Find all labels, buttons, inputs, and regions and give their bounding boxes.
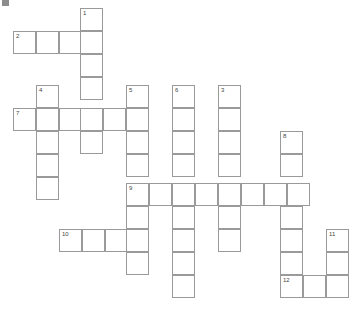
crossword-cell-clue-7[interactable]: 7 xyxy=(13,108,36,131)
crossword-cell[interactable] xyxy=(36,108,59,131)
crossword-cell[interactable] xyxy=(241,183,264,206)
crossword-cell-clue-3[interactable]: 3 xyxy=(218,85,241,108)
crossword-cell[interactable] xyxy=(326,275,349,298)
cell-letter[interactable] xyxy=(60,32,81,53)
crossword-cell-clue-4[interactable]: 4 xyxy=(36,85,59,108)
crossword-cell[interactable] xyxy=(218,229,241,252)
cell-letter[interactable] xyxy=(14,32,35,53)
crossword-cell[interactable] xyxy=(80,108,103,131)
cell-letter[interactable] xyxy=(281,253,302,274)
crossword-cell[interactable] xyxy=(218,108,241,131)
cell-letter[interactable] xyxy=(127,109,148,130)
cell-letter[interactable] xyxy=(196,184,217,205)
cell-letter[interactable] xyxy=(37,32,58,53)
crossword-cell[interactable] xyxy=(82,229,105,252)
cell-letter[interactable] xyxy=(281,207,302,228)
crossword-cell[interactable] xyxy=(172,206,195,229)
cell-letter[interactable] xyxy=(83,230,104,251)
crossword-cell[interactable] xyxy=(280,206,303,229)
crossword-cell[interactable] xyxy=(80,31,103,54)
crossword-cell[interactable] xyxy=(218,154,241,177)
cell-letter[interactable] xyxy=(81,55,102,76)
crossword-cell-clue-12[interactable]: 12 xyxy=(280,275,303,298)
crossword-cell-clue-11[interactable]: 11 xyxy=(326,229,349,252)
cell-letter[interactable] xyxy=(173,253,194,274)
cell-letter[interactable] xyxy=(173,184,194,205)
cell-letter[interactable] xyxy=(281,155,302,176)
crossword-cell[interactable] xyxy=(280,252,303,275)
cell-letter[interactable] xyxy=(281,132,302,153)
cell-letter[interactable] xyxy=(173,230,194,251)
cell-letter[interactable] xyxy=(242,184,263,205)
cell-letter[interactable] xyxy=(127,86,148,107)
cell-letter[interactable] xyxy=(106,230,127,251)
cell-letter[interactable] xyxy=(327,276,348,297)
crossword-cell[interactable] xyxy=(80,54,103,77)
crossword-cell[interactable] xyxy=(126,131,149,154)
crossword-cell[interactable] xyxy=(36,154,59,177)
cell-letter[interactable] xyxy=(37,178,58,199)
cell-letter[interactable] xyxy=(14,109,35,130)
cell-letter[interactable] xyxy=(81,32,102,53)
crossword-cell-clue-10[interactable]: 10 xyxy=(59,229,82,252)
cell-letter[interactable] xyxy=(81,132,102,153)
crossword-cell[interactable] xyxy=(36,177,59,200)
cell-letter[interactable] xyxy=(127,253,148,274)
cell-letter[interactable] xyxy=(127,155,148,176)
cell-letter[interactable] xyxy=(173,132,194,153)
crossword-cell[interactable] xyxy=(326,252,349,275)
cell-letter[interactable] xyxy=(127,184,148,205)
cell-letter[interactable] xyxy=(37,132,58,153)
cell-letter[interactable] xyxy=(219,184,240,205)
cell-letter[interactable] xyxy=(60,109,81,130)
crossword-cell[interactable] xyxy=(172,131,195,154)
cell-letter[interactable] xyxy=(219,230,240,251)
cell-letter[interactable] xyxy=(150,184,171,205)
crossword-cell[interactable] xyxy=(264,183,287,206)
cell-letter[interactable] xyxy=(265,184,286,205)
cell-letter[interactable] xyxy=(288,184,309,205)
cell-letter[interactable] xyxy=(81,109,102,130)
crossword-cell[interactable] xyxy=(172,252,195,275)
cell-letter[interactable] xyxy=(219,207,240,228)
crossword-cell[interactable] xyxy=(36,31,59,54)
crossword-cell[interactable] xyxy=(103,108,126,131)
crossword-cell[interactable] xyxy=(287,183,310,206)
crossword-cell[interactable] xyxy=(126,206,149,229)
cell-letter[interactable] xyxy=(37,109,58,130)
cell-letter[interactable] xyxy=(281,276,302,297)
cell-letter[interactable] xyxy=(327,230,348,251)
crossword-cell[interactable] xyxy=(126,252,149,275)
cell-letter[interactable] xyxy=(127,230,148,251)
crossword-cell[interactable] xyxy=(172,108,195,131)
crossword-cell[interactable] xyxy=(280,229,303,252)
crossword-cell[interactable] xyxy=(172,154,195,177)
crossword-cell[interactable] xyxy=(218,183,241,206)
cell-letter[interactable] xyxy=(281,230,302,251)
cell-letter[interactable] xyxy=(173,109,194,130)
crossword-cell[interactable] xyxy=(80,131,103,154)
crossword-cell[interactable] xyxy=(59,108,82,131)
crossword-cell[interactable] xyxy=(303,275,326,298)
crossword-cell[interactable] xyxy=(126,229,149,252)
cell-letter[interactable] xyxy=(81,78,102,99)
crossword-cell-clue-8[interactable]: 8 xyxy=(280,131,303,154)
cell-letter[interactable] xyxy=(219,155,240,176)
cell-letter[interactable] xyxy=(127,207,148,228)
cell-letter[interactable] xyxy=(219,132,240,153)
crossword-cell-clue-6[interactable]: 6 xyxy=(172,85,195,108)
crossword-cell[interactable] xyxy=(59,31,82,54)
crossword-cell[interactable] xyxy=(218,206,241,229)
cell-letter[interactable] xyxy=(37,155,58,176)
cell-letter[interactable] xyxy=(81,9,102,30)
crossword-cell-clue-5[interactable]: 5 xyxy=(126,85,149,108)
crossword-cell[interactable] xyxy=(105,229,128,252)
crossword-cell[interactable] xyxy=(126,108,149,131)
cell-letter[interactable] xyxy=(127,132,148,153)
cell-letter[interactable] xyxy=(304,276,325,297)
crossword-cell-clue-2[interactable]: 2 xyxy=(13,31,36,54)
cell-letter[interactable] xyxy=(173,86,194,107)
crossword-cell[interactable] xyxy=(172,183,195,206)
crossword-cell[interactable] xyxy=(218,131,241,154)
crossword-cell[interactable] xyxy=(126,154,149,177)
